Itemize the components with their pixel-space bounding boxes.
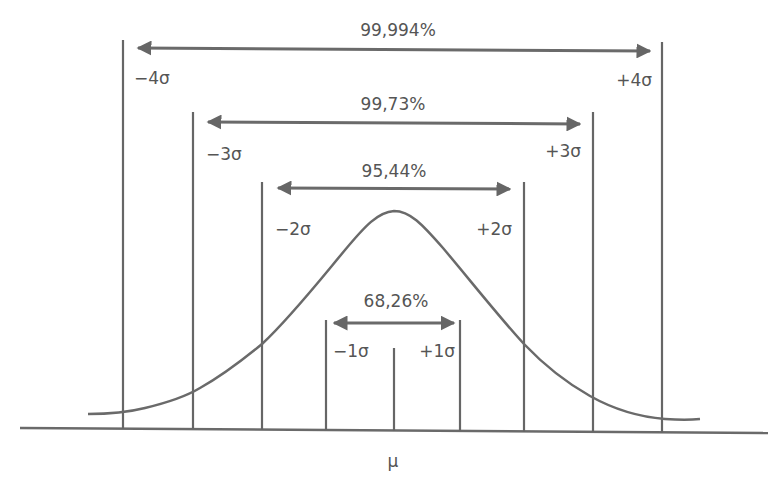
range-arrows [138, 48, 650, 323]
percent-label-4: 99,994% [360, 20, 436, 40]
range-arrow-4 [138, 48, 650, 51]
sigma-label-plus-1: +1σ [419, 341, 455, 361]
percent-label-1: 68,26% [364, 291, 429, 311]
sigma-label-minus-3: −3σ [206, 144, 242, 164]
sigma-label-minus-2: −2σ [275, 219, 311, 239]
normal-distribution-diagram: 99,994% 99,73% 95,44% 68,26% −4σ +4σ −3σ… [0, 0, 779, 489]
range-arrow-2 [278, 188, 510, 189]
range-arrow-3 [208, 122, 580, 124]
percent-label-3: 99,73% [361, 94, 426, 114]
sigma-label-minus-1: −1σ [333, 341, 369, 361]
mean-label: μ [388, 451, 399, 471]
sigma-label-plus-4: +4σ [616, 70, 652, 90]
sigma-label-minus-4: −4σ [134, 68, 170, 88]
sigma-label-plus-2: +2σ [476, 219, 512, 239]
sigma-label-plus-3: +3σ [545, 141, 581, 161]
percent-label-2: 95,44% [362, 161, 427, 181]
